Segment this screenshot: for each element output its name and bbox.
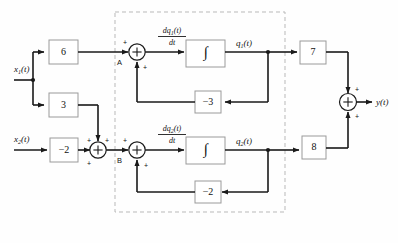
sign-sum-q2-bottom: +: [144, 162, 148, 169]
label-dq2-denominator: dt: [169, 136, 176, 145]
label-dq2-numerator: dq2(t): [163, 124, 182, 134]
label-dq1-denominator: dt: [169, 38, 176, 47]
gain-block-6-label: 6: [61, 46, 66, 57]
sign-sum-q1-left: +: [123, 39, 127, 46]
sign-sum-x2-left: +: [87, 160, 91, 167]
feedback-gain-block-minus2-label: −2: [203, 186, 214, 197]
gain-block-3-label: 3: [61, 99, 66, 110]
sign-sum-q2-left: +: [123, 137, 127, 144]
label-q2: q2(t): [236, 136, 252, 147]
gain-block-8-label: 8: [312, 141, 317, 152]
label-q1: q1(t): [236, 38, 252, 49]
label-node-B: B: [117, 156, 122, 165]
label-node-A: A: [117, 58, 122, 67]
gain-block-minus2-label: −2: [59, 144, 70, 155]
label-x2: x2(t): [13, 134, 30, 145]
label-x1: x1(t): [13, 64, 30, 75]
label-y-output: y(t): [375, 97, 389, 107]
label-dq1-numerator: dq1(t): [163, 26, 182, 36]
gain-block-7-label: 7: [311, 46, 316, 57]
feedback-gain-block-minus3-label: −3: [203, 96, 214, 107]
sign-sum-x2-bottom: +: [87, 137, 91, 144]
sign-sum-q1-bottom: +: [143, 64, 147, 71]
diagram-svg: x1(t) 6 3 A + + dq1(t) dt ∫ q1(t) −3: [0, 0, 398, 243]
block-diagram-canvas: x1(t) 6 3 A + + dq1(t) dt ∫ q1(t) −3: [0, 0, 398, 243]
sign-sum-x2-top: +: [105, 137, 109, 144]
sign-sum-out-top: +: [355, 86, 359, 93]
sign-sum-out-bottom: +: [355, 113, 359, 120]
